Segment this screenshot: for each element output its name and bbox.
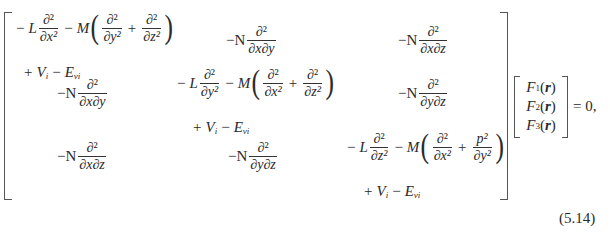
matrix-cell-2-2: − L ∂²∂y² − M ( ∂²∂x² + ∂²∂z² ) <box>173 68 335 99</box>
fraction: ∂²∂y² <box>200 68 219 99</box>
denominator: ∂y² <box>473 147 492 163</box>
right-paren: ) <box>164 10 172 44</box>
minus-sign: − <box>64 21 72 36</box>
subscript: 1 <box>535 83 540 93</box>
minus-sign: − <box>221 119 229 135</box>
denominator: ∂x∂y <box>247 40 275 56</box>
denominator: ∂x∂z <box>419 40 447 56</box>
matrix-cell-3-3-tail: +Vi−Evi <box>360 184 420 199</box>
numerator: ∂² <box>306 68 319 83</box>
coef-M: M <box>238 76 251 91</box>
close-paren: ) <box>551 117 556 133</box>
numerator: ∂² <box>85 141 98 156</box>
coef-minus-N: −N <box>398 33 417 48</box>
numerator: ∂² <box>267 68 280 83</box>
fraction: ∂²∂z² <box>303 68 322 99</box>
denominator: ∂x² <box>39 28 58 44</box>
numerator: ∂² <box>106 13 119 28</box>
fraction: ∂²∂y∂z <box>249 141 277 172</box>
denominator: ∂x² <box>263 83 282 99</box>
minus-sign: − <box>347 140 355 155</box>
plus-sign: + <box>24 64 32 80</box>
subscript: 2 <box>535 102 540 112</box>
denominator: ∂y² <box>200 83 219 99</box>
coef-minus-N: −N <box>398 86 417 101</box>
matrix-cell-3-3: − L ∂²∂z² − M ( ∂²∂x² + p²∂y² ) <box>343 132 505 163</box>
subscript: i <box>215 126 218 136</box>
matrix-cell-2-3: −N ∂²∂y∂z <box>398 78 449 109</box>
coef-L: L <box>28 21 36 36</box>
subscript: vi <box>243 126 250 136</box>
potential-V: V <box>205 119 214 135</box>
numerator: p² <box>476 132 489 147</box>
numerator: ∂² <box>426 25 439 40</box>
fraction: ∂²∂x∂z <box>419 25 447 56</box>
numerator: ∂² <box>256 141 269 156</box>
denominator: ∂z² <box>303 83 322 99</box>
numerator: ∂² <box>42 13 55 28</box>
equation-number: (5.14) <box>559 210 595 227</box>
numerator: ∂² <box>373 132 386 147</box>
matrix-cell-1-1: − L ∂²∂x² − M ( ∂²∂y² + ∂²∂z² ) <box>12 13 174 44</box>
coef-M: M <box>77 21 90 36</box>
fraction: ∂²∂x² <box>39 13 58 44</box>
fraction: ∂²∂z² <box>370 132 389 163</box>
vector-entry: F3(r) <box>520 116 562 135</box>
fraction: ∂²∂y² <box>102 13 121 44</box>
matrix-cell-2-2-tail: +Vi−Evi <box>189 120 249 135</box>
left-paren: ( <box>91 10 99 44</box>
energy-E: E <box>234 119 243 135</box>
subscript: 3 <box>535 121 540 131</box>
matrix-right-bracket <box>500 12 508 200</box>
close-paren: ) <box>551 98 556 114</box>
matrix-cell-2-1: −N ∂²∂x∂y <box>57 78 109 109</box>
vector-right-bracket <box>562 76 568 138</box>
energy-E: E <box>405 183 414 199</box>
subscript: i <box>386 190 389 200</box>
denominator: ∂y∂z <box>419 93 447 109</box>
numerator: ∂² <box>145 13 158 28</box>
numerator: ∂² <box>203 68 216 83</box>
coef-L: L <box>359 140 367 155</box>
fraction: ∂²∂x∂y <box>78 78 106 109</box>
equation-5-14: − L ∂²∂x² − M ( ∂²∂y² + ∂²∂z² ) +Vi−Evi … <box>0 0 610 233</box>
denominator: ∂z² <box>370 147 389 163</box>
matrix-cell-3-2: −N ∂²∂y∂z <box>228 141 279 172</box>
numerator: ∂² <box>86 78 99 93</box>
coef-minus-N: −N <box>57 86 76 101</box>
plus-sign: + <box>364 183 372 199</box>
right-paren: ) <box>495 129 503 163</box>
denominator: ∂z² <box>142 28 161 44</box>
vector-F: F1(r) F2(r) F3(r) <box>520 78 562 135</box>
vector-entry: F1(r) <box>520 78 562 97</box>
plus-sign: + <box>458 140 466 155</box>
fraction: ∂²∂x∂z <box>78 141 106 172</box>
matrix-cell-3-1: −N ∂²∂x∂z <box>57 141 108 172</box>
plus-sign: + <box>128 21 136 36</box>
fraction: ∂²∂x∂y <box>247 25 275 56</box>
coef-minus-N: −N <box>57 149 76 164</box>
minus-sign: − <box>16 21 24 36</box>
coef-M: M <box>407 140 420 155</box>
potential-V: V <box>36 64 45 80</box>
matrix-cell-1-3: −N ∂²∂x∂z <box>398 25 449 56</box>
coef-L: L <box>189 76 197 91</box>
denominator: ∂x² <box>433 147 452 163</box>
vector-entry: F2(r) <box>520 97 562 116</box>
numerator: ∂² <box>426 78 439 93</box>
subscript: vi <box>414 190 421 200</box>
left-paren: ( <box>252 65 260 99</box>
matrix-cell-1-2: −N ∂²∂x∂y <box>226 25 278 56</box>
fraction: ∂²∂y∂z <box>419 78 447 109</box>
denominator: ∂x∂y <box>78 93 106 109</box>
potential-V: V <box>376 183 385 199</box>
equals-zero: = 0, <box>573 99 596 114</box>
minus-sign: − <box>394 140 402 155</box>
denominator: ∂y∂z <box>249 156 277 172</box>
fraction: ∂²∂x² <box>263 68 282 99</box>
matrix-left-bracket <box>4 12 12 200</box>
minus-sign: − <box>392 183 400 199</box>
numerator: ∂² <box>255 25 268 40</box>
fraction: ∂²∂x² <box>433 132 452 163</box>
fraction: ∂²∂z² <box>142 13 161 44</box>
